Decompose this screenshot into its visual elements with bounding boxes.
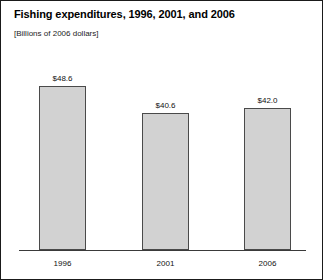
bar-2006 — [244, 108, 291, 250]
bar-value-label-2006: $42.0 — [244, 96, 291, 105]
x-axis-line — [19, 250, 306, 251]
bar-1996 — [39, 86, 86, 250]
x-axis-tick-label-2006: 2006 — [244, 259, 291, 268]
x-axis-tick-label-2001: 2001 — [142, 259, 189, 268]
bar-value-label-1996: $48.6 — [39, 74, 86, 83]
plot-area: $48.6 $40.6 $42.0 1996 2001 2006 — [1, 1, 323, 280]
chart-figure: Fishing expenditures, 1996, 2001, and 20… — [0, 0, 323, 280]
bar-2001 — [142, 113, 189, 250]
bar-value-label-2001: $40.6 — [142, 101, 189, 110]
x-axis-tick-label-1996: 1996 — [39, 259, 86, 268]
